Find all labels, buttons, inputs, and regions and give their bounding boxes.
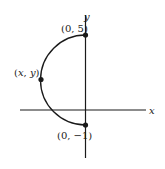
diagram-canvas: y x (0, 5) (x, y) (0, −1) — [0, 0, 165, 169]
y-axis-label: y — [83, 11, 90, 22]
point-top-label: (0, 5) — [61, 23, 88, 34]
semicircle-curve — [41, 35, 86, 125]
point-left-label: (x, y) — [14, 67, 40, 78]
x-axis-label: x — [149, 105, 155, 116]
point-bottom — [83, 122, 88, 127]
point-bottom-label: (0, −1) — [57, 130, 92, 141]
